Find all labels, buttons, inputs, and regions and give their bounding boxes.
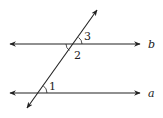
line-b-label: b (148, 38, 155, 51)
angle-3-arc (79, 38, 82, 45)
line-a-label: a (148, 87, 155, 100)
angle-1-label: 1 (49, 80, 56, 93)
angle-1-arc (43, 86, 47, 93)
diagram-canvas: b a 3 2 1 (0, 0, 163, 118)
angle-2-label: 2 (74, 49, 81, 62)
angle-3-label: 3 (84, 30, 91, 43)
